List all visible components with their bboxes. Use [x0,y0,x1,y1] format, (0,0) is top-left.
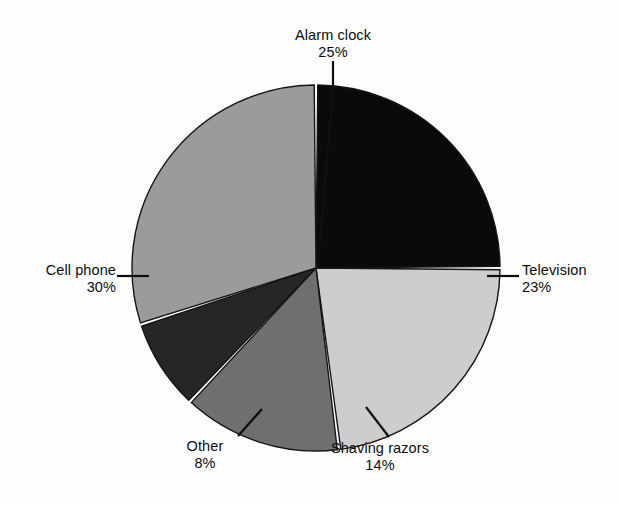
pie-label-cell-phone-percent: 30% [12,279,116,296]
pie-chart-figure: Alarm clock 25% Television 23% Cell phon… [0,0,619,505]
pie-label-shaving-razors: Shaving razors 14% [300,440,460,474]
pie-label-alarm-clock: Alarm clock 25% [248,27,418,61]
pie-chart-canvas [0,0,619,505]
pie-label-shaving-razors-name: Shaving razors [300,440,460,457]
pie-label-alarm-clock-percent: 25% [248,44,418,61]
pie-slice-alarm-clock[interactable] [316,85,500,268]
pie-label-other-name: Other [155,438,255,455]
pie-label-television: Television 23% [522,262,618,296]
pie-label-television-name: Television [522,262,618,279]
pie-label-television-percent: 23% [522,279,618,296]
pie-label-cell-phone: Cell phone 30% [12,262,116,296]
pie-label-other-percent: 8% [155,455,255,472]
pie-slices [132,85,500,451]
pie-slice-television[interactable] [316,268,500,449]
pie-label-shaving-razors-percent: 14% [300,457,460,474]
pie-label-cell-phone-name: Cell phone [12,262,116,279]
pie-label-other: Other 8% [155,438,255,472]
pie-label-alarm-clock-name: Alarm clock [248,27,418,44]
